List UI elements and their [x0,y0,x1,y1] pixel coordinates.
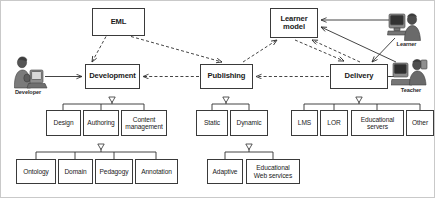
node-domain[interactable]: Domain [58,159,93,184]
node-educational-web-services-label: Educational Web services [254,164,292,178]
node-design-label: Design [54,119,74,126]
node-authoring-label: Authoring [87,119,114,126]
node-ontology[interactable]: Ontology [16,159,56,184]
actor-developer[interactable]: Developer [6,55,50,97]
node-eml-label: EML [111,18,127,26]
node-dynamic-label: Dynamic [237,119,262,126]
node-domain-label: Domain [64,168,86,175]
actor-teacher-label: Teacher [391,87,431,93]
node-content-management[interactable]: Content management [121,110,167,136]
node-design[interactable]: Design [46,110,81,136]
node-annotation-label: Annotation [141,168,172,175]
node-pedagogy[interactable]: Pedagogy [95,159,133,184]
node-publishing[interactable]: Publishing [200,64,253,89]
edge-publishing-learnermodel [243,40,277,62]
actor-teacher[interactable]: Teacher [391,56,431,96]
node-adaptive[interactable]: Adaptive [207,159,243,184]
node-static[interactable]: Static [196,110,228,136]
node-adaptive-label: Adaptive [213,168,238,175]
actor-learner[interactable]: Learner [387,10,426,50]
node-eml[interactable]: EML [92,8,145,36]
node-educational-servers-label: Educational servers [361,116,394,130]
edge-learnermodel-delivery [295,40,344,61]
diagram-canvas: EML Learner model Development Publishing… [0,0,436,199]
node-delivery-label: Delivery [345,72,374,80]
node-delivery[interactable]: Delivery [330,64,388,89]
node-educational-web-services[interactable]: Educational Web services [246,159,300,184]
node-lor-label: LOR [327,119,340,126]
node-other-label: Other [412,119,428,126]
node-dynamic[interactable]: Dynamic [230,110,268,136]
node-development[interactable]: Development [85,64,140,89]
node-learner-model[interactable]: Learner model [270,8,318,38]
developer-at-computer-icon [6,55,50,89]
node-educational-servers[interactable]: Educational servers [351,110,404,136]
node-development-label: Development [89,72,136,80]
teacher-at-computer-icon [391,56,431,87]
learner-at-computer-icon [387,10,426,41]
edge-delivery-learnermodel [312,40,360,62]
node-content-management-label: Content management [125,116,163,130]
edge-eml-development [92,37,106,63]
actor-learner-label: Learner [387,41,426,47]
node-pedagogy-label: Pedagogy [100,168,129,175]
node-annotation[interactable]: Annotation [135,159,178,184]
edge-teacher-learnermodel [321,27,396,62]
node-ontology-label: Ontology [23,168,49,175]
node-lor[interactable]: LOR [320,110,348,136]
node-authoring[interactable]: Authoring [83,110,119,136]
node-other[interactable]: Other [406,110,434,136]
node-publishing-label: Publishing [208,72,246,80]
node-static-label: Static [204,119,220,126]
actor-developer-label: Developer [6,89,50,95]
node-lms[interactable]: LMS [291,110,318,136]
node-lms-label: LMS [298,119,311,126]
edge-eml-publishing [131,37,222,63]
node-learner-model-label: Learner model [280,15,307,31]
